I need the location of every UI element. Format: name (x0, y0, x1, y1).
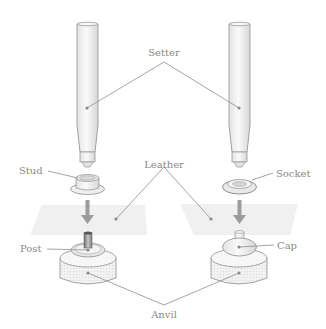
right-setter (229, 22, 250, 167)
left-setter (77, 22, 98, 167)
label-leather: Leather (144, 159, 184, 170)
label-anvil: Anvil (150, 309, 177, 320)
label-stud: Stud (19, 165, 43, 176)
socket (223, 180, 257, 195)
post (71, 232, 105, 258)
label-setter: Setter (148, 47, 180, 58)
label-cap: Cap (277, 240, 297, 251)
label-post: Post (20, 243, 42, 254)
label-socket: Socket (276, 168, 310, 179)
snap-setting-diagram: Setter Leather Stud Socket Post Cap Anvi… (0, 0, 326, 329)
